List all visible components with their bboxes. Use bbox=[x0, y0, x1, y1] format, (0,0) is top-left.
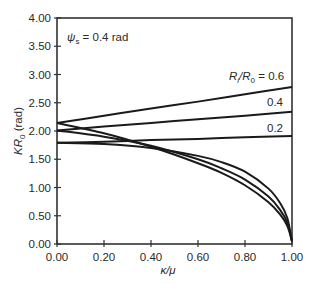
y-tick-label: 2.00 bbox=[29, 125, 51, 137]
series-line bbox=[57, 112, 292, 131]
data-series bbox=[57, 87, 292, 241]
ratio-label-02: 0.2 bbox=[267, 122, 283, 134]
y-tick-label: 1.50 bbox=[29, 153, 51, 165]
axis-ticks bbox=[54, 18, 292, 247]
x-tick-label: 0.00 bbox=[46, 251, 68, 263]
x-tick-label: 1.00 bbox=[281, 251, 303, 263]
y-tick-label: 4.00 bbox=[29, 12, 51, 24]
y-axis-label: KR0 (rad) bbox=[12, 107, 27, 155]
series-line bbox=[57, 136, 292, 143]
x-tick-label: 0.20 bbox=[93, 251, 115, 263]
ratio-label-04: 0.4 bbox=[267, 96, 284, 108]
psi-annotation: ψs = 0.4 rad bbox=[67, 31, 128, 46]
series-line bbox=[57, 123, 292, 241]
y-tick-label: 0.50 bbox=[29, 210, 51, 222]
y-tick-label: 0.00 bbox=[29, 238, 51, 250]
ratio-label-06: Ri/R0 = 0.6 bbox=[229, 70, 284, 85]
y-tick-label: 3.00 bbox=[29, 69, 51, 81]
y-tick-label: 2.50 bbox=[29, 97, 51, 109]
y-tick-label: 1.00 bbox=[29, 182, 51, 194]
series-line bbox=[57, 87, 292, 123]
x-tick-label: 0.60 bbox=[187, 251, 209, 263]
chart: 0.000.200.400.600.801.000.000.501.001.50… bbox=[0, 0, 313, 284]
y-tick-label: 3.50 bbox=[29, 40, 51, 52]
series-line bbox=[57, 130, 292, 241]
x-tick-label: 0.80 bbox=[234, 251, 256, 263]
x-axis-label: κ/μ bbox=[160, 264, 176, 276]
x-tick-label: 0.40 bbox=[140, 251, 162, 263]
